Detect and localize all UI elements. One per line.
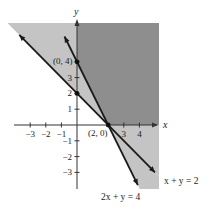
y-tick-label: −1 (62, 136, 72, 146)
x-tick-label: 4 (137, 129, 142, 139)
shaded-regions (7, 23, 159, 189)
y-tick-label: 2 (68, 88, 73, 98)
dark-shaded-region (77, 23, 159, 125)
point-marker (75, 91, 80, 96)
y-tick-label: −2 (62, 152, 72, 162)
point-label-0-4: (0, 4) (53, 56, 73, 66)
point-label-2-0: (2, 0) (88, 128, 108, 138)
x-tick-label: −3 (25, 129, 35, 139)
y-axis-label: y (73, 6, 79, 17)
x-axis-label: x (162, 119, 168, 130)
y-tick-label: −3 (62, 167, 72, 177)
inequality-graph: −3−2−134321−1−2−3 x y (0, 4) (2, 0) x + … (0, 0, 211, 211)
x-tick-label: −2 (41, 129, 51, 139)
y-tick-label: 1 (68, 104, 73, 114)
line-label-x-plus-y-2: x + y = 2 (164, 176, 199, 186)
point-marker (106, 123, 111, 128)
y-tick-label: 3 (68, 73, 73, 83)
x-tick-label: 3 (122, 129, 127, 139)
line-label-2x-plus-y-4: 2x + y = 4 (101, 192, 140, 202)
y-axis-arrow (75, 19, 80, 26)
point-marker (75, 59, 80, 64)
